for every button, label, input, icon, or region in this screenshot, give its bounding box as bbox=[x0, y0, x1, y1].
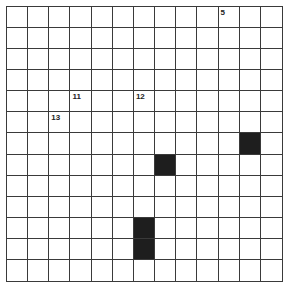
grid-cell[interactable] bbox=[219, 28, 240, 49]
grid-cell[interactable] bbox=[197, 155, 218, 176]
grid-cell[interactable] bbox=[70, 7, 91, 28]
grid-cell[interactable] bbox=[155, 260, 176, 281]
grid-cell[interactable] bbox=[49, 260, 70, 281]
grid-cell[interactable] bbox=[176, 176, 197, 197]
grid-cell[interactable] bbox=[261, 49, 282, 70]
grid-cell[interactable] bbox=[219, 112, 240, 133]
grid-cell[interactable] bbox=[134, 155, 155, 176]
grid-cell[interactable] bbox=[240, 28, 261, 49]
grid-cell[interactable] bbox=[7, 133, 28, 154]
grid-cell[interactable] bbox=[176, 112, 197, 133]
grid-cell[interactable] bbox=[176, 91, 197, 112]
grid-cell[interactable] bbox=[176, 260, 197, 281]
grid-cell[interactable] bbox=[197, 218, 218, 239]
grid-cell[interactable] bbox=[7, 70, 28, 91]
grid-cell[interactable] bbox=[49, 218, 70, 239]
grid-cell[interactable] bbox=[7, 239, 28, 260]
grid-cell[interactable] bbox=[219, 176, 240, 197]
grid-cell[interactable] bbox=[240, 7, 261, 28]
grid-cell[interactable] bbox=[28, 176, 49, 197]
grid-cell[interactable] bbox=[176, 70, 197, 91]
grid-cell[interactable] bbox=[7, 49, 28, 70]
grid-cell[interactable] bbox=[134, 49, 155, 70]
grid-cell[interactable] bbox=[113, 7, 134, 28]
grid-cell[interactable] bbox=[113, 28, 134, 49]
grid-cell[interactable] bbox=[134, 197, 155, 218]
grid-cell[interactable] bbox=[134, 28, 155, 49]
grid-cell[interactable] bbox=[113, 197, 134, 218]
grid-cell[interactable] bbox=[49, 176, 70, 197]
grid-cell[interactable] bbox=[155, 133, 176, 154]
grid-cell[interactable] bbox=[92, 197, 113, 218]
grid-cell[interactable] bbox=[261, 239, 282, 260]
grid-cell[interactable] bbox=[113, 260, 134, 281]
grid-cell[interactable] bbox=[197, 112, 218, 133]
grid-cell[interactable] bbox=[70, 218, 91, 239]
grid-cell[interactable] bbox=[92, 155, 113, 176]
grid-cell[interactable]: 11 bbox=[70, 91, 91, 112]
grid-cell[interactable] bbox=[49, 7, 70, 28]
grid-cell[interactable] bbox=[92, 91, 113, 112]
grid-cell[interactable]: 5 bbox=[219, 7, 240, 28]
grid-cell[interactable] bbox=[197, 260, 218, 281]
grid-cell[interactable] bbox=[197, 197, 218, 218]
grid-cell[interactable] bbox=[240, 70, 261, 91]
grid-cell[interactable] bbox=[134, 7, 155, 28]
grid-cell[interactable] bbox=[261, 155, 282, 176]
grid-cell[interactable] bbox=[92, 70, 113, 91]
grid-cell[interactable] bbox=[261, 133, 282, 154]
grid-cell[interactable] bbox=[92, 176, 113, 197]
grid-cell[interactable] bbox=[28, 91, 49, 112]
grid-cell[interactable] bbox=[49, 197, 70, 218]
grid-cell[interactable] bbox=[92, 28, 113, 49]
grid-cell[interactable] bbox=[155, 239, 176, 260]
grid-cell[interactable] bbox=[240, 176, 261, 197]
grid-cell[interactable] bbox=[155, 70, 176, 91]
grid-cell[interactable] bbox=[261, 176, 282, 197]
grid-cell[interactable] bbox=[155, 7, 176, 28]
grid-cell[interactable] bbox=[134, 176, 155, 197]
grid-cell[interactable] bbox=[219, 197, 240, 218]
grid-cell[interactable] bbox=[70, 260, 91, 281]
grid-cell[interactable] bbox=[155, 91, 176, 112]
grid-cell[interactable] bbox=[219, 70, 240, 91]
grid-cell[interactable] bbox=[7, 197, 28, 218]
grid-cell[interactable] bbox=[197, 133, 218, 154]
grid-cell[interactable] bbox=[49, 49, 70, 70]
grid-cell[interactable] bbox=[240, 239, 261, 260]
grid-cell[interactable] bbox=[28, 218, 49, 239]
grid-cell[interactable] bbox=[70, 133, 91, 154]
grid-cell[interactable] bbox=[240, 218, 261, 239]
grid-cell[interactable] bbox=[261, 218, 282, 239]
grid-cell[interactable] bbox=[92, 7, 113, 28]
grid-cell[interactable] bbox=[261, 197, 282, 218]
grid-cell[interactable] bbox=[219, 218, 240, 239]
grid-cell[interactable] bbox=[28, 49, 49, 70]
grid-cell[interactable] bbox=[240, 260, 261, 281]
grid-cell[interactable] bbox=[197, 28, 218, 49]
grid-cell[interactable] bbox=[176, 7, 197, 28]
grid-cell[interactable] bbox=[261, 28, 282, 49]
grid-cell[interactable] bbox=[92, 239, 113, 260]
grid-cell[interactable] bbox=[197, 176, 218, 197]
grid-cell[interactable] bbox=[155, 197, 176, 218]
grid-cell[interactable] bbox=[219, 260, 240, 281]
grid-cell[interactable] bbox=[7, 260, 28, 281]
grid-cell[interactable] bbox=[28, 7, 49, 28]
grid-cell[interactable] bbox=[261, 91, 282, 112]
grid-cell[interactable] bbox=[240, 112, 261, 133]
grid-cell[interactable]: 12 bbox=[134, 91, 155, 112]
grid-cell[interactable] bbox=[240, 91, 261, 112]
grid-cell[interactable] bbox=[197, 70, 218, 91]
grid-cell[interactable] bbox=[28, 197, 49, 218]
grid-cell[interactable] bbox=[92, 218, 113, 239]
grid-cell[interactable] bbox=[28, 260, 49, 281]
grid-cell[interactable] bbox=[92, 112, 113, 133]
grid-cell[interactable] bbox=[197, 49, 218, 70]
grid-cell[interactable] bbox=[113, 133, 134, 154]
grid-cell[interactable] bbox=[240, 155, 261, 176]
grid-cell[interactable] bbox=[70, 197, 91, 218]
grid-cell[interactable] bbox=[92, 49, 113, 70]
grid-cell[interactable] bbox=[49, 133, 70, 154]
grid-cell[interactable] bbox=[155, 49, 176, 70]
